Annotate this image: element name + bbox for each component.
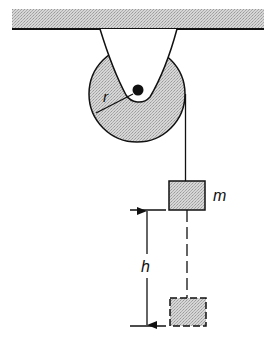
- ceiling-hatch: [12, 9, 264, 29]
- ceiling: [12, 9, 264, 29]
- height-marker: h: [130, 210, 166, 326]
- axle-dot: [133, 85, 144, 96]
- mass-label: m: [213, 187, 226, 204]
- pulley-diagram: r m h: [0, 0, 264, 351]
- final-block-position: [170, 298, 206, 326]
- mass-block: [169, 181, 205, 210]
- mass-block-rect: [169, 181, 205, 210]
- height-label: h: [141, 258, 150, 275]
